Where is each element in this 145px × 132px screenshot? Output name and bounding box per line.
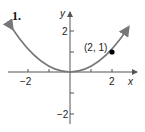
- y-tick-label-neg2: −2: [57, 109, 69, 120]
- x-tick-label-neg2: −2: [20, 76, 32, 87]
- x-axis-label: x: [127, 76, 134, 87]
- point-2-1: [109, 49, 114, 54]
- graph-figure: 1. y x −2 2 2 −2 (2, 1): [0, 0, 145, 132]
- coordinate-plane: 1. y x −2 2 2 −2 (2, 1): [0, 0, 145, 132]
- problem-number: 1.: [12, 9, 21, 23]
- y-tick-label-2: 2: [62, 26, 68, 37]
- x-tick-label-2: 2: [109, 76, 115, 87]
- point-label: (2, 1): [84, 42, 107, 53]
- y-axis-label: y: [59, 8, 66, 19]
